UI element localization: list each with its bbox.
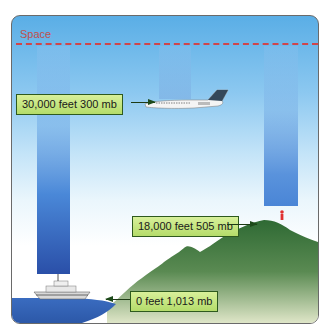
water: [12, 298, 116, 323]
arrow-to-airplane: [131, 102, 155, 103]
scene-illustration: [12, 16, 318, 323]
boat-icon: [34, 274, 90, 299]
diagram-frame: Space: [11, 15, 319, 324]
label-30000-feet: 30,000 feet 300 mb: [16, 94, 123, 115]
label-18000-feet: 18,000 feet 505 mb: [132, 216, 239, 237]
label-0-feet: 0 feet 1,013 mb: [130, 291, 218, 312]
airplane-icon: [145, 90, 228, 108]
arrow-to-sea-level: [106, 299, 130, 300]
person-icon: [280, 210, 284, 220]
arrow-to-person: [227, 224, 257, 225]
